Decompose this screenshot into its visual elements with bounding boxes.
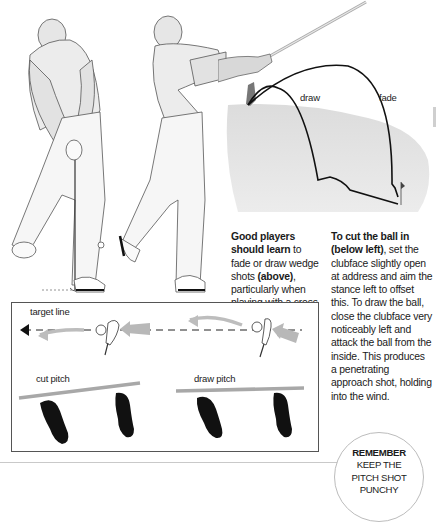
foot-cut-left — [40, 400, 68, 444]
target-arrow-head — [20, 324, 29, 336]
clubhead-open — [106, 320, 119, 345]
foot-cut-right — [115, 393, 134, 438]
draw-pitch-stance-line — [176, 388, 304, 391]
footprints — [40, 393, 292, 444]
swing-path-arrow-cut — [127, 323, 150, 335]
shot-trajectory-illustration — [218, 0, 436, 225]
caption-left-ref: (above) — [258, 271, 294, 282]
ball-cut — [96, 325, 106, 335]
clubhead-closed — [262, 319, 271, 345]
foot-draw-right — [273, 393, 292, 438]
ball-draw — [252, 322, 262, 332]
fairway-area — [227, 104, 430, 212]
golfer-address-illustration — [12, 19, 105, 292]
draw-pitch-label: draw pitch — [194, 373, 235, 384]
caption-right-text: , set the clubface slightly open at addr… — [331, 244, 432, 401]
golfer-illustrations — [0, 0, 230, 300]
remember-line-2: PITCH SHOT — [335, 472, 423, 484]
foot-draw-left — [197, 397, 223, 438]
caption-left-lead: Good players should learn — [231, 231, 295, 255]
draw-label: draw — [300, 92, 320, 103]
golfer-follow-through-illustration — [120, 16, 226, 292]
golf-ball — [98, 242, 104, 248]
remember-callout: REMEMBER KEEP THE PITCH SHOT PUNCHY — [334, 432, 424, 522]
remember-line-3: PUNCHY — [335, 484, 423, 496]
target-line-label: target line — [30, 306, 70, 317]
caption-cut-draw-technique: To cut the ball in (below left), set the… — [331, 230, 433, 403]
remember-line-1: KEEP THE — [335, 459, 423, 471]
divider-rule — [0, 462, 338, 463]
stance-diagram: target line cut pitch draw pitch — [11, 302, 319, 452]
fade-label: fade — [379, 92, 397, 103]
remember-title: REMEMBER — [335, 447, 423, 459]
gloved-hand — [218, 54, 272, 82]
cut-pitch-label: cut pitch — [36, 373, 70, 384]
